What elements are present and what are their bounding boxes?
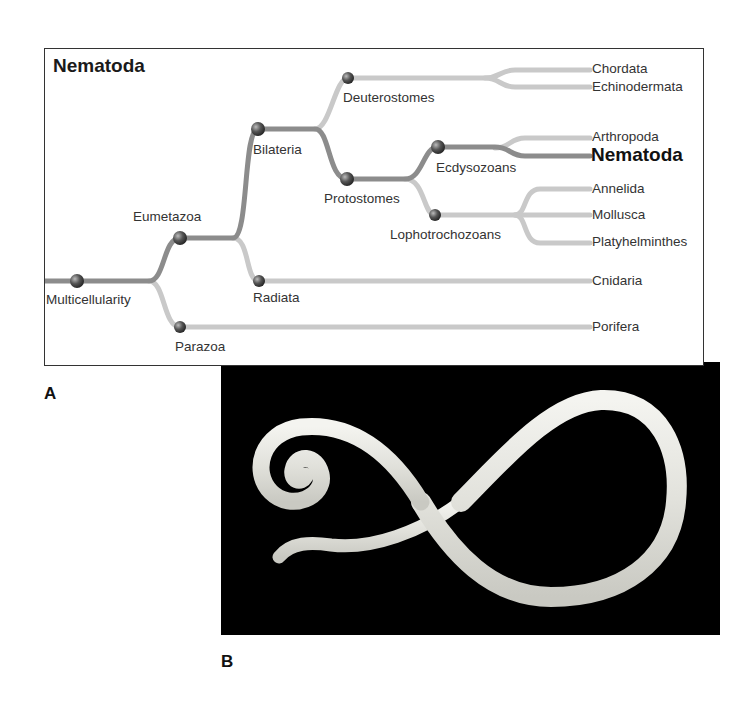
phylogenetic-tree-panel: Nematoda xyxy=(44,48,704,366)
taxon-chordata: Chordata xyxy=(592,61,648,76)
worm-illustration xyxy=(221,362,720,635)
label-deuterostomes: Deuterostomes xyxy=(343,90,435,105)
taxon-annelida: Annelida xyxy=(592,181,645,196)
label-protostomes: Protostomes xyxy=(324,191,400,206)
taxon-cnidaria: Cnidaria xyxy=(592,273,642,288)
taxon-porifera: Porifera xyxy=(592,319,639,334)
label-parazoa: Parazoa xyxy=(175,339,225,354)
node-ecdysozoans xyxy=(431,140,445,154)
label-multicellularity: Multicellularity xyxy=(46,292,131,307)
taxon-echinodermata: Echinodermata xyxy=(592,79,683,94)
label-lophotrochozoans: Lophotrochozoans xyxy=(390,227,501,242)
panel-letter-a: A xyxy=(44,384,56,404)
node-lophotrochozoans xyxy=(429,209,441,221)
node-protostomes xyxy=(340,172,354,186)
taxon-platyhelminthes: Platyhelminthes xyxy=(592,234,687,249)
label-eumetazoa: Eumetazoa xyxy=(133,209,201,224)
node-multicellularity xyxy=(70,274,84,288)
label-radiata: Radiata xyxy=(253,290,300,305)
panel-letter-b: B xyxy=(221,652,233,672)
taxon-nematoda: Nematoda xyxy=(591,144,683,166)
node-parazoa xyxy=(174,321,186,333)
taxon-arthropoda: Arthropoda xyxy=(592,129,659,144)
node-bilateria xyxy=(251,122,265,136)
label-bilateria: Bilateria xyxy=(253,142,302,157)
nematode-photo xyxy=(221,362,720,635)
taxon-mollusca: Mollusca xyxy=(592,207,645,222)
node-eumetazoa xyxy=(173,231,187,245)
node-radiata xyxy=(253,275,265,287)
label-ecdysozoans: Ecdysozoans xyxy=(436,160,516,175)
node-deuterostomes xyxy=(342,72,354,84)
